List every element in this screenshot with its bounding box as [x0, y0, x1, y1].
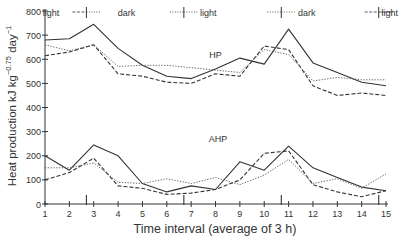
- y-axis-label-exp2: −1: [4, 26, 13, 35]
- y-tick-label: 100: [26, 175, 41, 185]
- x-tick-label: 13: [332, 209, 342, 219]
- x-tick-label: 12: [308, 209, 318, 219]
- y-tick-label: 700: [26, 31, 41, 41]
- y-axis-label-main: Heat production kJ kg: [6, 75, 18, 186]
- phase-legend: lightdarklightdarklight: [43, 7, 399, 18]
- y-axis-label: Heat production kJ kg−0.75 day−1: [4, 26, 18, 187]
- x-axis-label: Time interval (average of 3 h): [134, 222, 297, 236]
- series-ahp-dotted: [45, 159, 386, 188]
- y-tick-label: 0: [36, 200, 41, 210]
- x-tick-label: 10: [259, 209, 269, 219]
- x-tick-label: 4: [116, 209, 121, 219]
- x-tick-label: 8: [213, 209, 218, 219]
- annotations: HPAHP: [209, 50, 228, 144]
- x-tick-label: 2: [67, 209, 72, 219]
- phase-label: dark: [118, 8, 136, 18]
- x-tick-label: 6: [164, 209, 169, 219]
- x-tick-label: 14: [357, 209, 367, 219]
- series-group-label: HP: [209, 50, 222, 60]
- x-tick-label: 7: [189, 209, 194, 219]
- x-tick-label: 15: [381, 209, 391, 219]
- series-group-label: AHP: [209, 134, 228, 144]
- y-tick-label: 800: [26, 7, 41, 17]
- x-tick-label: 5: [140, 209, 145, 219]
- phase-label: light: [381, 8, 398, 18]
- y-tick-label: 500: [26, 79, 41, 89]
- phase-label: light: [200, 8, 217, 18]
- series-ahp-solid: [45, 145, 386, 192]
- y-tick-label: 400: [26, 103, 41, 113]
- y-tick-label: 300: [26, 127, 41, 137]
- y-tick-label: 200: [26, 151, 41, 161]
- y-axis-label-mid: day: [6, 34, 18, 56]
- x-tick-label: 11: [284, 209, 293, 219]
- x-axis: 123456789101112131415: [42, 195, 391, 219]
- y-axis: 0100200300400500600700800: [26, 7, 48, 210]
- x-tick-label: 9: [237, 209, 242, 219]
- series-ahp-dashed: [45, 151, 386, 197]
- x-tick-label: 1: [42, 209, 47, 219]
- phase-label: dark: [298, 8, 316, 18]
- y-axis-label-exp1: −0.75: [4, 56, 13, 75]
- phase-label: light: [43, 8, 60, 18]
- y-tick-label: 600: [26, 55, 41, 65]
- x-tick-label: 3: [91, 209, 96, 219]
- heat-production-chart: 0100200300400500600700800 12345678910111…: [0, 0, 418, 240]
